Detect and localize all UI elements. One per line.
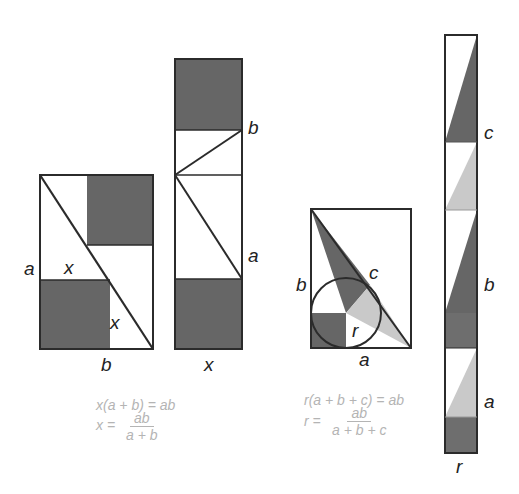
figure1-label-a: a [24, 259, 35, 278]
equation-right-denominator: a + b + c [328, 422, 390, 437]
figure2-label-x: x [204, 355, 214, 374]
figure-2-rectangle [175, 59, 242, 349]
equation-right-numerator: ab [347, 406, 371, 422]
figure-1-rectangle [40, 175, 153, 349]
figure4-label-a: a [484, 392, 495, 411]
equation-left-denominator: a + b [122, 427, 162, 442]
equation-left-lhs: x = [96, 418, 115, 432]
figure-4-strip [445, 35, 477, 453]
figure4-label-c: c [484, 123, 494, 142]
figure3-label-b: b [296, 275, 307, 294]
figure4-label-r: r [456, 457, 462, 476]
figure1-label-x-bottom: x [110, 313, 120, 332]
figure2-label-a: a [248, 246, 259, 265]
equation-right-lhs: r = [304, 414, 321, 428]
bottom-square [175, 279, 242, 349]
figure2-label-b: b [248, 118, 259, 137]
equation-left-numerator: ab [130, 411, 154, 427]
figure3-label-r: r [352, 321, 358, 340]
figure-3-incircle [311, 209, 411, 348]
figure1-label-x-top: x [64, 258, 74, 277]
equation-right-fraction: ab a + b + c [328, 406, 390, 437]
geometry-diagram [0, 0, 519, 494]
figure4-label-b: b [484, 275, 495, 294]
top-square [175, 59, 242, 130]
equation-left-fraction: ab a + b [122, 411, 162, 442]
upper-square-x [87, 175, 153, 245]
figure3-label-c: c [369, 263, 379, 282]
lower-square-x [40, 280, 110, 349]
figure1-label-b: b [101, 355, 112, 374]
figure3-label-a: a [359, 350, 370, 369]
